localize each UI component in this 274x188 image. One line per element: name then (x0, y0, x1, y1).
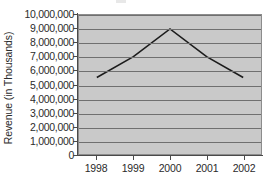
y-axis-tick-label: 7,000,000 (16, 50, 74, 62)
x-axis-tick-label: 2001 (187, 162, 227, 174)
y-axis-tick-mark (73, 99, 78, 100)
revenue-line-chart: Revenue (in Thousands) 10,000,0009,000,0… (0, 0, 274, 188)
gridline (79, 15, 261, 16)
y-axis-tick-label: 2,000,000 (16, 121, 74, 133)
gridline (79, 114, 261, 115)
scan-artifact (116, 0, 126, 3)
x-axis-tick-mark (207, 156, 208, 160)
gridline (79, 142, 261, 143)
x-axis-tick-mark (133, 156, 134, 160)
y-axis-tick-mark (73, 127, 78, 128)
y-axis-tick-label: 0 (16, 149, 74, 161)
y-axis-tick-mark (73, 113, 78, 114)
x-axis-tick-label: 1999 (113, 162, 153, 174)
x-axis-tick-label: 2002 (224, 162, 264, 174)
y-axis-tick-mark (73, 14, 78, 15)
plot-area (78, 14, 262, 155)
x-axis-tick-mark (244, 156, 245, 160)
y-axis-tick-label: 3,000,000 (16, 107, 74, 119)
y-axis-tick-label: 8,000,000 (16, 36, 74, 48)
y-axis-tick-label: 10,000,000 (16, 8, 74, 20)
y-axis-tick-label: 9,000,000 (16, 22, 74, 34)
x-axis-tick-label: 1998 (76, 162, 116, 174)
y-axis-tick-label: 5,000,000 (16, 79, 74, 91)
x-axis-tick-labels: 19981999200020012002 (0, 162, 274, 176)
gridline (79, 71, 261, 72)
y-axis-tick-mark (73, 70, 78, 71)
gridline (79, 128, 261, 129)
x-axis-tick-label: 2000 (150, 162, 190, 174)
revenue-series-line (79, 15, 261, 154)
gridline (79, 43, 261, 44)
gridline (79, 57, 261, 58)
y-axis-tick-label: 4,000,000 (16, 93, 74, 105)
y-axis-title: Revenue (in Thousands) (2, 8, 16, 168)
gridline (79, 29, 261, 30)
y-axis-tick-label: 1,000,000 (16, 135, 74, 147)
gridline (79, 100, 261, 101)
y-axis-tick-labels: 10,000,0009,000,0008,000,0007,000,0006,0… (16, 8, 74, 160)
gridline (79, 86, 261, 87)
y-axis-tick-label: 6,000,000 (16, 64, 74, 76)
y-axis-tick-mark (73, 42, 78, 43)
y-axis-tick-mark (73, 155, 78, 156)
y-axis-tick-mark (73, 141, 78, 142)
x-axis-tick-mark (96, 156, 97, 160)
y-axis-tick-mark (73, 28, 78, 29)
y-axis-tick-mark (73, 56, 78, 57)
y-axis-tick-mark (73, 85, 78, 86)
x-axis-tick-mark (170, 156, 171, 160)
